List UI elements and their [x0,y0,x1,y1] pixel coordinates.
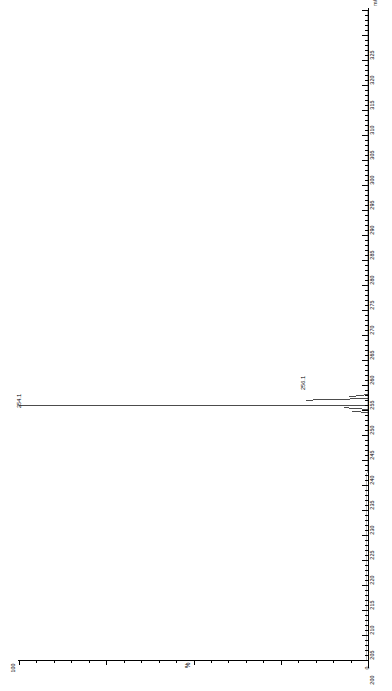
mz-tick-minor [365,25,368,26]
mz-tick-minor [365,350,368,351]
mz-tick-minor [365,165,368,166]
mz-tick-minor [365,100,368,101]
mz-tick-major [362,135,368,136]
mz-tick-minor [365,220,368,221]
mz-tick-minor [365,290,368,291]
mz-tick-minor [365,200,368,201]
mz-tick-minor [365,305,368,306]
mz-tick-minor [365,150,368,151]
mz-tick-label: 295 [369,195,375,215]
mz-tick-label: 325 [369,45,375,65]
percent-tick [19,661,20,665]
percent-tick [228,661,229,663]
mz-tick-minor [365,430,368,431]
mz-tick-minor [365,565,368,566]
percent-tick [211,661,212,663]
mz-tick-minor [365,525,368,526]
mz-tick-minor [365,390,368,391]
mz-tick-minor [365,605,368,606]
mz-tick-label: 285 [369,245,375,265]
mz-tick-label: 310 [369,120,375,140]
percent-tick [89,661,90,663]
mz-tick-minor [365,195,368,196]
mz-tick-major [362,635,368,636]
peak-label-254: 254.1 [16,388,22,414]
peak-label-256: 256.1 [300,370,306,396]
mz-tick-minor [365,615,368,616]
percent-tick [281,661,282,665]
percent-tick [141,661,142,663]
mz-tick-minor [365,415,368,416]
mz-tick-minor [365,620,368,621]
mz-tick-major [362,585,368,586]
mz-tick-minor [365,15,368,16]
mz-tick-major [362,85,368,86]
mz-tick-minor [365,530,368,531]
mz-tick-major [362,385,368,386]
mz-tick-minor [365,20,368,21]
mz-tick-minor [365,450,368,451]
mz-tick-minor [365,590,368,591]
mz-tick-label: 225 [369,545,375,565]
mz-tick-minor [365,455,368,456]
mz-tick-major [362,60,368,61]
mz-tick-major [362,210,368,211]
mz-tick-minor [365,330,368,331]
mz-tick-label: 215 [369,595,375,615]
mz-tick-label: 280 [369,270,375,290]
mz-tick-minor [365,105,368,106]
mz-tick-minor [365,515,368,516]
mz-tick-label: 320 [369,70,375,90]
mz-tick-minor [365,325,368,326]
mz-tick-minor [365,225,368,226]
mz-tick-minor [365,255,368,256]
mz-tick-label: 290 [369,220,375,240]
mz-tick-minor [365,540,368,541]
mz-tick-minor [365,545,368,546]
mz-tick-major [362,310,368,311]
mz-tick-major [362,435,368,436]
percent-tick [194,661,195,665]
percent-tick [106,661,107,665]
mz-tick-minor [365,405,368,406]
mz-tick-minor [365,465,368,466]
mz-tick-minor [365,275,368,276]
percent-tick [71,661,72,663]
mz-tick-label: 200 [369,670,375,690]
mz-tick-major [362,485,368,486]
mz-tick-minor [365,145,368,146]
percent-tick-label-100: 100 [10,659,16,677]
mz-tick-minor [365,75,368,76]
mz-tick-minor [365,520,368,521]
mz-tick-minor [365,265,368,266]
mz-tick-label: 245 [369,445,375,465]
mz-tick-label: 205 [369,645,375,665]
mz-tick-major [362,10,368,11]
mz-tick-minor [365,175,368,176]
mz-tick-major [362,285,368,286]
mz-tick-minor [365,65,368,66]
percent-tick [368,661,369,665]
mz-tick-minor [365,580,368,581]
mz-tick-major [362,260,368,261]
mz-tick-minor [365,30,368,31]
mz-tick-minor [365,115,368,116]
mz-tick-major [362,335,368,336]
mz-tick-label: 305 [369,145,375,165]
mz-tick-label: 235 [369,495,375,515]
mz-tick-major [362,410,368,411]
percent-tick [176,661,177,663]
percent-tick [124,661,125,663]
mz-tick-label: 230 [369,520,375,540]
mz-tick-minor [365,40,368,41]
percent-axis-title: % [184,659,191,673]
mz-tick-label: 300 [369,170,375,190]
mz-tick-minor [365,470,368,471]
mz-tick-minor [365,140,368,141]
mz-tick-minor [365,320,368,321]
mz-tick-label: 260 [369,370,375,390]
mz-tick-minor [365,270,368,271]
mz-tick-minor [365,445,368,446]
mz-tick-minor [365,120,368,121]
mz-tick-minor [365,295,368,296]
